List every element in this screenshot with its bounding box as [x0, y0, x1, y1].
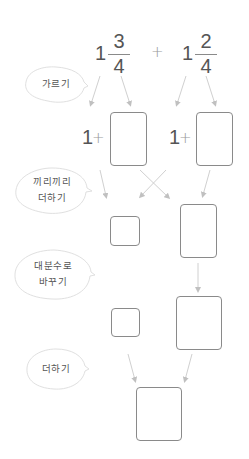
plus-operator: +	[151, 43, 164, 61]
numerator-1: 3	[110, 30, 128, 53]
denominator-1: 4	[110, 55, 128, 78]
whole-number-2: 1	[182, 42, 193, 65]
whole-number-1: 1	[95, 42, 106, 65]
denominator-2: 4	[197, 55, 215, 78]
split-plus-left: +	[92, 129, 105, 147]
answer-box-whole-sum[interactable]	[110, 216, 140, 246]
answer-box-mixed-number[interactable]	[176, 296, 222, 350]
answer-box-final[interactable]	[136, 387, 182, 441]
answer-box-whole-carry[interactable]	[111, 308, 140, 337]
step-label-convert: 대분수로 바꾸기	[16, 258, 90, 290]
answer-box-split-left[interactable]	[110, 112, 147, 166]
split-plus-right: +	[179, 129, 192, 147]
step-label-add: 더하기	[28, 361, 84, 377]
numerator-2: 2	[197, 30, 215, 53]
step-label-add-parts: 끼리끼리 더하기	[16, 174, 88, 206]
answer-box-split-right[interactable]	[196, 112, 233, 166]
answer-box-fraction-sum[interactable]	[180, 204, 217, 258]
step-label-split: 가르기	[28, 76, 84, 92]
